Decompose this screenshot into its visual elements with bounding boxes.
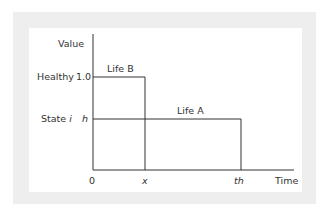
x-tick-0: 0 <box>89 175 95 186</box>
x-axis-label: Time <box>274 175 298 186</box>
life-a-line <box>93 119 241 170</box>
healthy-value-label: 1.0 <box>76 71 91 82</box>
value-time-diagram: Value Healthy 1.0 State i h Life B Life … <box>0 0 327 215</box>
x-tick-th: th <box>234 175 244 186</box>
state-i-label: State i <box>41 113 72 124</box>
x-tick-x: x <box>141 175 148 186</box>
healthy-label: Healthy <box>37 71 74 82</box>
state-i-value-label: h <box>82 113 88 124</box>
life-b-line <box>93 77 145 170</box>
life-a-label: Life A <box>177 105 204 116</box>
life-b-label: Life B <box>107 63 134 74</box>
y-axis-label: Value <box>58 38 84 49</box>
